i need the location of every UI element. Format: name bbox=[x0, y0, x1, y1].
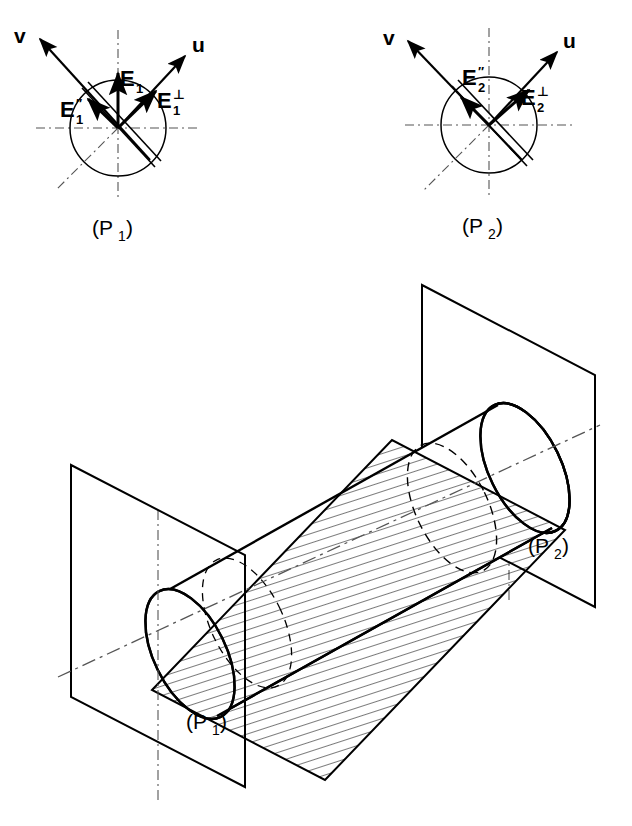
svg-text:E: E bbox=[521, 85, 536, 110]
scene-caption-P1: (P 1 ) bbox=[186, 710, 227, 738]
svg-text:E: E bbox=[120, 66, 135, 91]
vector-E2-dprime-arrow bbox=[461, 97, 489, 125]
svg-text:): ) bbox=[126, 216, 133, 239]
svg-text:E: E bbox=[462, 65, 477, 90]
vector-v-label-p2: v bbox=[383, 26, 395, 49]
scene-3d: (P 1 ) (P 2 ) bbox=[58, 285, 600, 800]
svg-text:2: 2 bbox=[537, 100, 544, 115]
svg-text:1: 1 bbox=[76, 112, 83, 127]
svg-text:⊥: ⊥ bbox=[173, 87, 185, 102]
panel-P2: v u E 2 ⊥ E 2 ′′ (P 2 ) bbox=[383, 26, 576, 242]
optics-figure: v u E 1 E 1 ⊥ E 1 ′′ (P 1 ) bbox=[0, 0, 632, 826]
vector-E2-dprime-label: E 2 ′′ bbox=[462, 64, 485, 95]
svg-text:(P: (P bbox=[92, 216, 113, 239]
svg-text:1: 1 bbox=[212, 722, 220, 738]
vector-u-label-p2: u bbox=[563, 29, 576, 52]
figure-canvas: v u E 1 E 1 ⊥ E 1 ′′ (P 1 ) bbox=[0, 0, 632, 826]
vector-v-arrow-p1 bbox=[40, 39, 150, 160]
svg-text:2: 2 bbox=[554, 546, 562, 562]
vector-u-label-p1: u bbox=[192, 33, 205, 56]
svg-text:1: 1 bbox=[118, 228, 126, 244]
vector-E1-dprime-arrow bbox=[88, 99, 118, 128]
axis-diagonal-p1 bbox=[56, 128, 118, 190]
svg-text:): ) bbox=[496, 214, 503, 237]
svg-text:E: E bbox=[157, 88, 172, 113]
svg-text:⊥: ⊥ bbox=[537, 84, 549, 99]
panel-P2-caption: (P 2 ) bbox=[462, 214, 503, 242]
vector-E1-label: E 1 bbox=[120, 66, 143, 96]
svg-text:2: 2 bbox=[488, 226, 496, 242]
vector-E1-perp-label: E 1 ⊥ bbox=[157, 87, 185, 118]
panel-P1-caption: (P 1 ) bbox=[92, 216, 133, 244]
vector-v-label-p1: v bbox=[14, 24, 26, 47]
svg-text:E: E bbox=[60, 97, 75, 122]
vector-E1-dprime-label: E 1 ′′ bbox=[60, 96, 83, 127]
svg-text:1: 1 bbox=[173, 103, 180, 118]
svg-text:): ) bbox=[220, 710, 227, 733]
axis-diagonal-p2 bbox=[424, 125, 489, 190]
svg-text:): ) bbox=[562, 534, 569, 557]
svg-text:′′: ′′ bbox=[76, 96, 82, 111]
vector-E1-perp-arrow bbox=[118, 91, 156, 128]
svg-text:(P: (P bbox=[528, 534, 549, 557]
svg-text:′′: ′′ bbox=[478, 64, 484, 79]
svg-text:(P: (P bbox=[186, 710, 207, 733]
svg-text:1: 1 bbox=[136, 81, 143, 96]
svg-text:2: 2 bbox=[478, 80, 485, 95]
svg-text:(P: (P bbox=[462, 214, 483, 237]
panel-P1: v u E 1 E 1 ⊥ E 1 ′′ (P 1 ) bbox=[14, 24, 205, 244]
